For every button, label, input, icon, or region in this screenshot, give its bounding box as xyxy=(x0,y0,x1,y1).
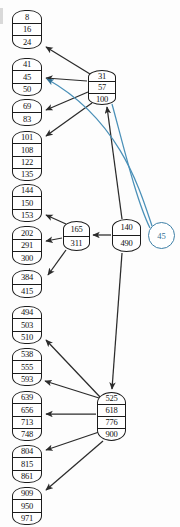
leaf-node-9[interactable]: 538 555 593 xyxy=(12,348,42,386)
key-cell: 618 xyxy=(98,405,125,417)
edge-inner525-leaf9 xyxy=(45,381,99,398)
key-cell: 538 xyxy=(13,349,41,361)
leaf-node-6[interactable]: 202 291 300 xyxy=(12,226,42,265)
key-cell: 415 xyxy=(13,285,41,298)
key-cell: 165 xyxy=(64,222,89,237)
key-cell: 122 xyxy=(13,157,41,169)
edges-root-to-leaves xyxy=(46,47,92,136)
leaf-node-3[interactable]: 69 83 xyxy=(12,99,42,126)
edge-inner165-leaf7 xyxy=(48,250,66,275)
key-cell: 525 xyxy=(98,393,125,405)
key-cell: 83 xyxy=(13,113,41,125)
key-cell: 748 xyxy=(13,429,41,440)
key-cell: 593 xyxy=(13,374,41,385)
key-cell: 804 xyxy=(13,446,41,458)
key-cell: 100 xyxy=(89,94,115,104)
edge-root-leaf3 xyxy=(46,92,88,110)
edge-inner165-leaf6 xyxy=(46,238,62,241)
key-cell: 150 xyxy=(13,197,41,209)
leaf-node-10[interactable]: 639 656 713 748 xyxy=(12,391,42,441)
leaf-node-1[interactable]: 8 16 24 xyxy=(12,10,42,49)
key-cell: 815 xyxy=(13,458,41,470)
key-cell: 45 xyxy=(13,71,41,83)
leaf-node-5[interactable]: 144 150 153 xyxy=(12,184,42,222)
key-cell: 57 xyxy=(89,82,115,93)
leaf-node-8[interactable]: 494 503 510 xyxy=(12,306,42,344)
internal-node-165[interactable]: 165 311 xyxy=(63,221,90,251)
edge-root-leaf1 xyxy=(46,47,90,74)
edge-inner525-leaf8 xyxy=(46,340,100,397)
key-cell: 656 xyxy=(13,404,41,416)
key-cell: 108 xyxy=(13,144,41,156)
key-cell: 69 xyxy=(13,100,41,113)
key-cell: 950 xyxy=(13,500,41,512)
key-cell: 639 xyxy=(13,392,41,404)
key-cell: 300 xyxy=(13,252,41,264)
key-cell: 101 xyxy=(13,132,41,144)
key-cell: 555 xyxy=(13,361,41,373)
key-cell: 971 xyxy=(13,513,41,524)
key-cell: 140 xyxy=(113,220,140,236)
edge-query-root xyxy=(112,104,150,228)
btree-diagram-canvas: 8 16 24 41 45 50 69 83 101 108 122 135 1… xyxy=(0,0,180,527)
key-cell: 909 xyxy=(13,488,41,500)
edge-mid-root xyxy=(107,107,122,219)
search-key-label: 45 xyxy=(157,231,166,241)
key-cell: 8 xyxy=(13,11,41,24)
edge-inner525-leaf12 xyxy=(46,441,103,490)
key-cell: 494 xyxy=(13,307,41,319)
key-cell: 713 xyxy=(13,417,41,429)
edge-root-leaf4 xyxy=(46,103,92,136)
key-cell: 31 xyxy=(89,71,115,82)
key-cell: 510 xyxy=(13,332,41,343)
leaf-node-11[interactable]: 804 815 861 xyxy=(12,445,42,483)
internal-node-root[interactable]: 31 57 100 xyxy=(88,70,116,105)
edge-inner525-leaf11 xyxy=(46,432,99,450)
leaf-node-12[interactable]: 909 950 971 xyxy=(12,487,42,525)
leaf-node-7[interactable]: 384 415 xyxy=(12,270,42,298)
search-key-badge[interactable]: 45 xyxy=(148,222,175,249)
key-cell: 41 xyxy=(13,59,41,71)
edge-root-leaf2 xyxy=(46,78,87,81)
key-cell: 202 xyxy=(13,227,41,240)
key-cell: 16 xyxy=(13,24,41,37)
page-edge-artifact xyxy=(0,8,3,24)
key-cell: 135 xyxy=(13,169,41,180)
leaf-node-2[interactable]: 41 45 50 xyxy=(12,58,42,96)
leaf-node-4[interactable]: 101 108 122 135 xyxy=(12,131,42,181)
edge-inner165-leaf5 xyxy=(46,215,66,224)
internal-node-525[interactable]: 525 618 776 900 xyxy=(97,392,126,441)
key-cell: 503 xyxy=(13,319,41,331)
edges-inner525-to-leaves xyxy=(45,340,103,490)
key-cell: 490 xyxy=(113,236,140,251)
key-cell: 861 xyxy=(13,471,41,482)
key-cell: 776 xyxy=(98,417,125,429)
key-cell: 900 xyxy=(98,429,125,440)
key-cell: 50 xyxy=(13,84,41,95)
key-cell: 24 xyxy=(13,36,41,48)
key-cell: 153 xyxy=(13,210,41,221)
internal-node-mid[interactable]: 140 490 xyxy=(112,219,141,252)
key-cell: 384 xyxy=(13,271,41,285)
key-cell: 144 xyxy=(13,185,41,197)
key-cell: 311 xyxy=(64,237,89,251)
key-cell: 291 xyxy=(13,240,41,253)
edge-mid-inner525 xyxy=(112,253,122,389)
